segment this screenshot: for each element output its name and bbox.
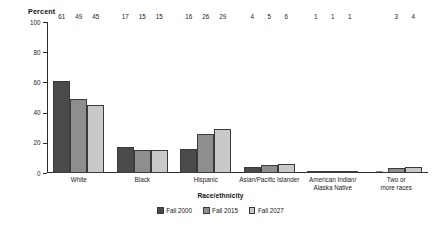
bar-value-label: 16 xyxy=(185,13,192,21)
category-label-line: Black xyxy=(111,176,175,184)
bar[interactable]: 49 xyxy=(70,99,87,173)
category-label-line: Asian/Pacific Islander xyxy=(238,176,302,184)
bar-slot: 26 xyxy=(197,22,214,173)
bar-value-label: 15 xyxy=(156,13,163,21)
legend-label: Fall 2027 xyxy=(258,207,284,214)
legend: Fall 2000Fall 2015Fall 2027 xyxy=(0,207,441,214)
y-axis-tick-label: 80 xyxy=(33,48,40,57)
bar[interactable]: 17 xyxy=(117,147,134,173)
category-label: White xyxy=(47,176,111,184)
bar[interactable]: 6 xyxy=(278,164,295,173)
bar[interactable]: 16 xyxy=(180,149,197,173)
bar-group-bars: 171515 xyxy=(111,22,175,173)
y-axis-tick: 0 xyxy=(43,173,47,174)
bar-slot: 15 xyxy=(134,22,151,173)
bar[interactable]: 1 xyxy=(307,171,324,173)
bar-slot: 1 xyxy=(324,22,341,173)
legend-item[interactable]: Fall 2015 xyxy=(203,207,238,214)
bar[interactable]: 15 xyxy=(134,150,151,173)
legend-swatch-icon xyxy=(249,207,256,214)
bar-slot: 17 xyxy=(117,22,134,173)
bar[interactable]: 26 xyxy=(197,134,214,173)
bar-value-label: 4 xyxy=(411,13,415,21)
bar[interactable]: 61 xyxy=(53,81,70,173)
bar-slot: 1 xyxy=(341,22,358,173)
plot-area: 020406080100 614945171515162629456111—34 xyxy=(47,22,428,173)
bar[interactable]: 5 xyxy=(261,165,278,173)
bar-value-label: 1 xyxy=(314,13,318,21)
category-label: Black xyxy=(111,176,175,184)
bar-group-bars: 111 xyxy=(301,22,365,173)
bar-value-label: 6 xyxy=(284,13,288,21)
bar-group-bars: 162629 xyxy=(174,22,238,173)
bar-slot: 1 xyxy=(307,22,324,173)
bar-value-label: 15 xyxy=(139,13,146,21)
y-axis-tick-label: 100 xyxy=(30,18,41,27)
bar-slot: 6 xyxy=(278,22,295,173)
y-axis-tick-label: 20 xyxy=(33,138,40,147)
bar-group: 456 xyxy=(238,22,302,173)
bar-group-bars: 614945 xyxy=(47,22,111,173)
category-label-line: Two or xyxy=(365,176,429,184)
bar-group: 111 xyxy=(301,22,365,173)
bar-slot: 4 xyxy=(405,22,422,173)
bar-value-label: 3 xyxy=(394,13,398,21)
bar-group: 614945 xyxy=(47,22,111,173)
bar[interactable]: 3 xyxy=(388,168,405,173)
bar-value-label: 4 xyxy=(250,13,254,21)
bar-group-bars: 456 xyxy=(238,22,302,173)
bar-group-bars: —34 xyxy=(365,22,429,173)
bar-value-label: 5 xyxy=(267,13,271,21)
bar-slot: 3 xyxy=(388,22,405,173)
x-axis-title: Race/ethnicity xyxy=(0,192,441,199)
bar-value-label: 49 xyxy=(75,13,82,21)
category-label: Two ormore races xyxy=(365,176,429,192)
category-label: Asian/Pacific Islander xyxy=(238,176,302,184)
bar-value-label: 17 xyxy=(122,13,129,21)
y-axis-tick-label: 40 xyxy=(33,108,40,117)
bar-slot: 45 xyxy=(87,22,104,173)
bar-group: 171515 xyxy=(111,22,175,173)
legend-swatch-icon xyxy=(157,207,164,214)
category-label: Hispanic xyxy=(174,176,238,184)
bar-group: —34 xyxy=(365,22,429,173)
legend-label: Fall 2000 xyxy=(166,207,192,214)
bar[interactable]: 29 xyxy=(214,129,231,173)
bar-slot: 5 xyxy=(261,22,278,173)
bar-value-label: 1 xyxy=(331,13,335,21)
category-label-line: White xyxy=(47,176,111,184)
bar-slot: 15 xyxy=(151,22,168,173)
bar-slot: — xyxy=(371,22,388,173)
y-axis-tick-label: 0 xyxy=(37,169,41,178)
category-label-line: Hispanic xyxy=(174,176,238,184)
bar-slot: 4 xyxy=(244,22,261,173)
y-axis-title: Percent xyxy=(28,7,55,16)
legend-item[interactable]: Fall 2000 xyxy=(157,207,192,214)
bar-slot: 16 xyxy=(180,22,197,173)
bar-value-label: 26 xyxy=(202,13,209,21)
legend-label: Fall 2015 xyxy=(212,207,238,214)
bar[interactable]: 15 xyxy=(151,150,168,173)
bar-value-label: — xyxy=(376,167,383,175)
bar[interactable]: 4 xyxy=(405,167,422,173)
bar-slot: 61 xyxy=(53,22,70,173)
bar-chart: Percent 020406080100 6149451715151626294… xyxy=(0,0,441,226)
bar-group: 162629 xyxy=(174,22,238,173)
legend-swatch-icon xyxy=(203,207,210,214)
legend-item[interactable]: Fall 2027 xyxy=(249,207,284,214)
bar-value-label: 45 xyxy=(92,13,99,21)
category-label-line: American Indian/ xyxy=(301,176,365,184)
bar[interactable]: 4 xyxy=(244,167,261,173)
bar-value-label: 29 xyxy=(219,13,226,21)
category-label: American Indian/Alaska Native xyxy=(301,176,365,192)
bar-value-label: 1 xyxy=(348,13,352,21)
bar-value-label: 61 xyxy=(58,13,65,21)
bar-slot: 49 xyxy=(70,22,87,173)
bar[interactable]: 45 xyxy=(87,105,104,173)
y-axis-tick-label: 60 xyxy=(33,78,40,87)
bar[interactable]: 1 xyxy=(341,171,358,173)
bar-slot: 29 xyxy=(214,22,231,173)
bar[interactable]: 1 xyxy=(324,171,341,173)
